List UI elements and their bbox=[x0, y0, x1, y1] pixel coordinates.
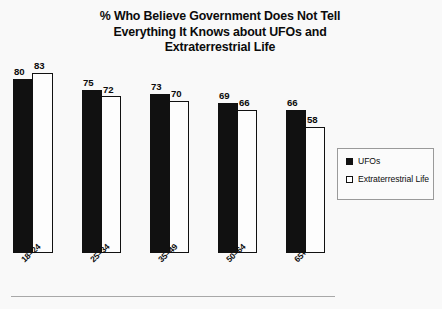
bar-value-ufos: 73 bbox=[151, 82, 161, 92]
bar-ufos[interactable] bbox=[13, 79, 33, 253]
bar-group: 69 66 bbox=[218, 53, 257, 253]
bar-value-ufos: 75 bbox=[83, 78, 93, 88]
legend-label-extraterrestrial-life: Extraterrestrial Life bbox=[358, 175, 429, 185]
bottom-divider bbox=[11, 296, 335, 297]
bar-extraterrestrial-life[interactable] bbox=[237, 110, 257, 253]
bar-value-ufos: 80 bbox=[14, 67, 24, 77]
bar-value-extraterrestrial-life: 58 bbox=[307, 115, 317, 125]
bar-value-ufos: 69 bbox=[219, 91, 229, 101]
bar-group: 80 83 bbox=[13, 53, 53, 253]
bar-group: 75 72 bbox=[82, 53, 121, 253]
bar-group: 66 58 bbox=[286, 53, 325, 253]
bar-group: 73 70 bbox=[150, 53, 189, 253]
bar-value-ufos: 66 bbox=[287, 98, 297, 108]
legend-item-extraterrestrial-life[interactable]: Extraterrestrial Life bbox=[346, 175, 429, 185]
bar-ufos[interactable] bbox=[286, 110, 306, 253]
legend-swatch-hollow-square-icon bbox=[346, 176, 353, 183]
bar-ufos[interactable] bbox=[218, 103, 238, 253]
bar-extraterrestrial-life[interactable] bbox=[101, 96, 121, 253]
bar-extraterrestrial-life[interactable] bbox=[169, 101, 189, 253]
legend-item-ufos[interactable]: UFOs bbox=[346, 157, 380, 167]
legend-label-ufos: UFOs bbox=[358, 157, 380, 167]
chart-legend: UFOs Extraterrestrial Life bbox=[337, 148, 434, 200]
bar-extraterrestrial-life[interactable] bbox=[305, 127, 325, 253]
bar-value-extraterrestrial-life: 72 bbox=[103, 85, 113, 95]
chart-container: % Who Believe Government Does Not Tell E… bbox=[0, 0, 442, 309]
bar-value-extraterrestrial-life: 66 bbox=[239, 98, 249, 108]
bar-value-extraterrestrial-life: 70 bbox=[171, 89, 181, 99]
legend-swatch-filled-square-icon bbox=[346, 158, 353, 165]
bar-ufos[interactable] bbox=[82, 90, 102, 253]
bar-value-extraterrestrial-life: 83 bbox=[34, 61, 44, 71]
bar-extraterrestrial-life[interactable] bbox=[32, 73, 53, 253]
bar-ufos[interactable] bbox=[150, 94, 170, 253]
